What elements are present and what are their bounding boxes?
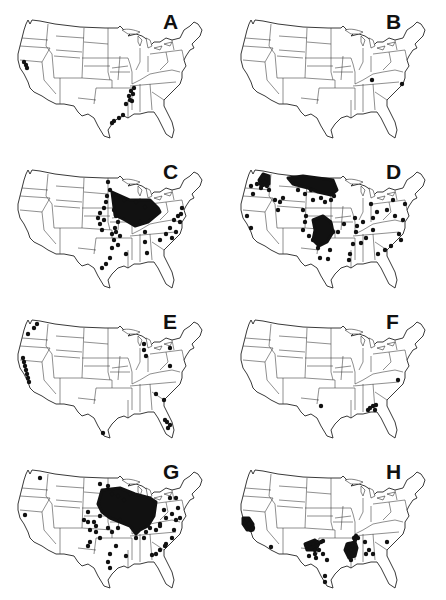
location-dot xyxy=(348,252,352,256)
location-dot xyxy=(174,518,178,522)
location-dot xyxy=(127,94,131,98)
location-dot xyxy=(321,552,325,556)
location-dot xyxy=(174,496,178,500)
location-dot xyxy=(367,548,371,552)
location-dot xyxy=(323,580,327,584)
location-dot xyxy=(251,526,255,530)
location-dot xyxy=(122,198,126,202)
location-dot xyxy=(164,542,168,546)
location-dot xyxy=(347,542,351,546)
location-dot xyxy=(108,188,112,192)
location-dot xyxy=(393,214,397,218)
location-dot xyxy=(86,520,90,524)
location-dot xyxy=(374,403,378,407)
location-dot xyxy=(316,246,320,250)
location-dot xyxy=(88,540,92,544)
location-dot xyxy=(332,194,336,198)
location-dot xyxy=(349,558,353,562)
location-dot xyxy=(323,200,327,204)
location-dot xyxy=(166,426,170,430)
location-dot xyxy=(373,408,377,412)
panel-label: D xyxy=(386,161,401,182)
location-dot xyxy=(162,508,166,512)
location-dot xyxy=(170,236,174,240)
location-dot xyxy=(245,214,249,218)
location-dot xyxy=(98,222,102,226)
location-dot xyxy=(106,526,110,530)
location-dot xyxy=(38,476,42,480)
location-dot xyxy=(331,230,335,234)
location-dot xyxy=(391,198,395,202)
location-dot xyxy=(178,516,182,520)
us-map xyxy=(0,150,223,300)
map-panel-h: H xyxy=(223,450,446,600)
location-dot xyxy=(154,528,158,532)
location-dot xyxy=(403,202,407,206)
location-dot xyxy=(359,241,363,245)
location-dot xyxy=(170,512,174,516)
location-dot xyxy=(108,256,112,260)
location-dot xyxy=(278,200,282,204)
location-dot xyxy=(100,266,104,270)
location-dot xyxy=(112,208,116,212)
location-dot xyxy=(172,218,176,222)
location-dot xyxy=(138,220,142,224)
location-dot xyxy=(158,524,162,528)
location-dot xyxy=(323,574,327,578)
location-dot xyxy=(399,238,403,242)
location-dot xyxy=(148,526,152,530)
us-map xyxy=(223,300,446,450)
location-dot xyxy=(143,230,147,234)
location-dot xyxy=(291,178,295,182)
location-dot xyxy=(118,518,122,522)
location-dot xyxy=(110,121,114,125)
location-dot xyxy=(315,544,319,548)
location-dot xyxy=(116,494,120,498)
panel-label: C xyxy=(163,161,178,182)
location-dot xyxy=(313,548,317,552)
location-dot xyxy=(168,496,172,500)
location-dot xyxy=(154,552,158,556)
location-dot xyxy=(117,116,121,120)
location-dot xyxy=(144,530,148,534)
location-dot xyxy=(26,376,30,380)
location-dot xyxy=(22,360,26,364)
location-dot xyxy=(35,322,39,326)
location-dot xyxy=(116,220,120,224)
location-dot xyxy=(315,540,319,544)
location-dot xyxy=(23,513,27,517)
location-dot xyxy=(101,431,105,435)
us-map xyxy=(0,0,223,150)
location-dot xyxy=(307,234,311,238)
location-dot xyxy=(336,230,340,234)
location-dot xyxy=(158,548,162,552)
figure-grid: ABCDEFGH xyxy=(0,0,446,600)
location-dot xyxy=(309,546,313,550)
location-dot xyxy=(114,214,118,218)
location-dot xyxy=(319,196,323,200)
location-dot xyxy=(247,522,251,526)
location-dot xyxy=(176,506,180,510)
location-dot xyxy=(106,180,110,184)
location-dot xyxy=(142,348,146,352)
location-dot xyxy=(105,194,109,198)
map-panel-e: E xyxy=(0,300,223,450)
location-dot xyxy=(281,196,285,200)
location-dot xyxy=(296,188,300,192)
location-dot xyxy=(94,530,98,534)
location-dot xyxy=(363,540,367,544)
location-dot xyxy=(370,78,374,82)
location-dot xyxy=(354,230,358,234)
location-dot xyxy=(375,210,379,214)
location-dot xyxy=(347,258,351,262)
location-dot xyxy=(318,256,322,260)
us-map xyxy=(0,450,223,600)
location-dot xyxy=(144,354,148,358)
location-dot xyxy=(102,206,106,210)
location-dot xyxy=(122,498,126,502)
map-panel-f: F xyxy=(223,300,446,450)
location-dot xyxy=(104,262,108,266)
location-dot xyxy=(113,226,117,230)
location-dot xyxy=(134,536,138,540)
location-dot xyxy=(269,545,273,549)
